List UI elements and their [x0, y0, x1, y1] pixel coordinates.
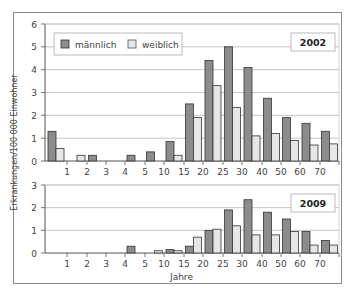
bar-female	[194, 237, 202, 253]
x-axis-label: Jahre	[170, 272, 193, 282]
bar-female	[233, 107, 241, 161]
bar-female	[77, 155, 85, 161]
bar-male	[264, 98, 272, 161]
legend-label-female: weiblich	[142, 40, 179, 50]
x-tick-label: 70	[314, 259, 326, 269]
bar-female	[56, 148, 64, 161]
y-tick-label: 6	[31, 20, 37, 30]
y-tick-label: 5	[31, 42, 37, 52]
bar-male	[166, 142, 174, 161]
y-tick-label: 3	[31, 88, 37, 98]
bar-female	[213, 86, 221, 161]
bar-male	[186, 246, 194, 253]
legend-label-male: männlich	[75, 40, 116, 50]
y-tick-label: 2	[31, 111, 37, 121]
x-tick-label: 10	[158, 167, 170, 177]
y-tick-label: 0	[31, 249, 37, 259]
x-tick-label: 50	[275, 167, 287, 177]
y-axis-label: Erkrankungen/100 000 Einwohner	[10, 73, 19, 213]
x-tick-label: 1	[64, 167, 70, 177]
x-tick-label: 5	[142, 259, 148, 269]
bar-male	[127, 155, 135, 161]
x-tick-label: 60	[294, 167, 306, 177]
bar-female	[310, 145, 318, 161]
y-tick-label: 3	[31, 181, 37, 191]
y-tick-label: 0	[31, 157, 37, 167]
bar-female	[213, 229, 221, 253]
bar-male	[205, 61, 213, 161]
year-label: 2009	[300, 198, 326, 209]
bar-female	[252, 136, 260, 161]
bar-female	[252, 235, 260, 253]
bar-female	[233, 226, 241, 253]
bar-male	[48, 131, 56, 161]
x-tick-label: 60	[294, 259, 306, 269]
bar-male	[244, 67, 252, 161]
year-label: 2002	[300, 37, 326, 48]
x-tick-label: 70	[314, 167, 326, 177]
bar-male	[264, 212, 272, 253]
legend-swatch-male	[61, 40, 69, 48]
bar-male	[322, 241, 330, 253]
x-tick-label: 1	[64, 259, 70, 269]
bar-female	[174, 251, 182, 253]
y-tick-label: 1	[31, 134, 37, 144]
bar-male	[89, 155, 97, 161]
x-tick-label: 15	[178, 167, 189, 177]
bar-female	[291, 231, 299, 253]
x-tick-label: 2	[84, 259, 90, 269]
x-tick-label: 2	[84, 167, 90, 177]
bar-male	[244, 200, 252, 253]
bar-male	[186, 104, 194, 161]
y-tick-label: 1	[31, 226, 37, 236]
bar-female	[174, 155, 182, 161]
bar-male	[302, 231, 310, 253]
bar-female	[310, 245, 318, 253]
bar-male	[302, 123, 310, 161]
x-tick-label: 15	[178, 259, 189, 269]
bar-female	[330, 144, 338, 161]
x-tick-label: 50	[275, 259, 287, 269]
x-tick-label: 20	[197, 259, 209, 269]
x-tick-label: 5	[142, 167, 148, 177]
x-tick-label: 30	[236, 259, 248, 269]
x-tick-label: 25	[217, 259, 228, 269]
y-tick-label: 2	[31, 203, 37, 213]
bar-female	[194, 118, 202, 161]
bar-male	[127, 246, 135, 253]
bar-male	[225, 47, 233, 161]
x-tick-label: 20	[197, 167, 209, 177]
bar-female	[272, 134, 280, 161]
bar-male	[225, 210, 233, 253]
chart-canvas: 0123456123451015202530405060702002012312…	[0, 0, 355, 295]
bar-male	[283, 219, 291, 253]
y-tick-label: 4	[31, 65, 37, 75]
bar-female	[155, 251, 163, 253]
x-tick-label: 10	[158, 259, 170, 269]
x-tick-label: 40	[256, 167, 268, 177]
x-tick-label: 3	[103, 167, 109, 177]
bar-female	[291, 140, 299, 161]
bar-male	[283, 118, 291, 161]
bar-male	[166, 250, 174, 253]
legend-swatch-female	[128, 40, 136, 48]
x-tick-label: 3	[103, 259, 109, 269]
bar-male	[147, 152, 155, 161]
bar-male	[322, 131, 330, 161]
bar-male	[205, 230, 213, 253]
bar-female	[330, 245, 338, 253]
x-tick-label: 4	[122, 259, 128, 269]
bar-female	[272, 235, 280, 253]
x-tick-label: 25	[217, 167, 228, 177]
x-tick-label: 40	[256, 259, 268, 269]
x-tick-label: 30	[236, 167, 248, 177]
x-tick-label: 4	[122, 167, 128, 177]
